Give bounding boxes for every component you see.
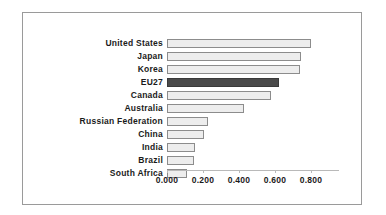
bar-brazil xyxy=(167,156,194,165)
bar-russian-federation xyxy=(167,117,208,126)
x-tick-label: 0.800 xyxy=(291,175,331,185)
bar-row: Brazil xyxy=(23,154,363,167)
category-label: India xyxy=(23,141,163,154)
bar-row: United States xyxy=(23,37,363,50)
category-label: Japan xyxy=(23,50,163,63)
x-tick-mark xyxy=(275,170,276,173)
bar-united-states xyxy=(167,39,311,48)
x-axis-line xyxy=(167,170,339,171)
x-tick-mark xyxy=(311,170,312,173)
chart-frame: United States Japan Korea EU27 xyxy=(22,12,362,205)
bar-row: Japan xyxy=(23,50,363,63)
x-tick-label: 0.000 xyxy=(147,175,187,185)
x-tick-label: 0.200 xyxy=(183,175,223,185)
x-tick-mark xyxy=(167,170,168,173)
bar-australia xyxy=(167,104,244,113)
bar-korea xyxy=(167,65,300,74)
category-label: Brazil xyxy=(23,154,163,167)
bar-row: Korea xyxy=(23,63,363,76)
x-tick-mark xyxy=(239,170,240,173)
category-label: Russian Federation xyxy=(23,115,163,128)
bar-row: India xyxy=(23,141,363,154)
x-tick-mark xyxy=(203,170,204,173)
x-tick-label: 0.600 xyxy=(255,175,295,185)
x-tick-label: 0.400 xyxy=(219,175,259,185)
bar-china xyxy=(167,130,204,139)
category-label: Australia xyxy=(23,102,163,115)
bar-row: China xyxy=(23,128,363,141)
bar-japan xyxy=(167,52,301,61)
bar-india xyxy=(167,143,195,152)
bar-row: Russian Federation xyxy=(23,115,363,128)
bar-row: EU27 xyxy=(23,76,363,89)
bar-chart-figure: United States Japan Korea EU27 xyxy=(0,0,386,215)
category-label: Canada xyxy=(23,89,163,102)
plot-area: United States Japan Korea EU27 xyxy=(23,13,363,206)
category-label: EU27 xyxy=(23,76,163,89)
category-label: Korea xyxy=(23,63,163,76)
bar-row: Canada xyxy=(23,89,363,102)
category-label: South Africa xyxy=(23,167,163,180)
category-label: United States xyxy=(23,37,163,50)
bar-canada xyxy=(167,91,271,100)
category-label: China xyxy=(23,128,163,141)
bar-eu27 xyxy=(167,78,279,87)
bar-row: Australia xyxy=(23,102,363,115)
